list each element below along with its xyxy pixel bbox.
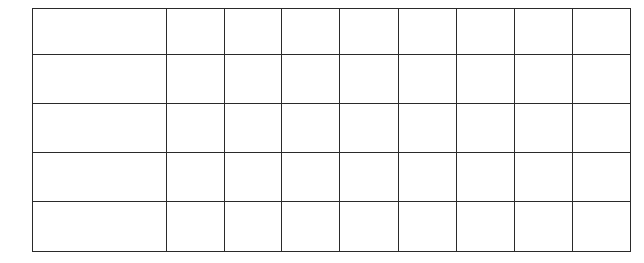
table-cell — [457, 9, 515, 55]
table-cell — [225, 104, 282, 153]
table-cell — [282, 153, 340, 202]
table-cell — [167, 55, 225, 104]
table-cell — [225, 55, 282, 104]
table-cell — [457, 55, 515, 104]
table-cell — [573, 104, 631, 153]
table-cell — [167, 9, 225, 55]
table-cell — [340, 55, 399, 104]
table-cell — [340, 9, 399, 55]
table-cell — [340, 202, 399, 252]
table-row — [33, 153, 631, 202]
table-cell — [167, 104, 225, 153]
table-cell — [457, 202, 515, 252]
table-cell — [515, 202, 573, 252]
table-row-label-cell — [33, 202, 167, 252]
table-cell — [282, 202, 340, 252]
table-cell — [399, 202, 457, 252]
table-cell — [573, 55, 631, 104]
table-row-label-cell — [33, 55, 167, 104]
table-cell — [225, 9, 282, 55]
table-cell — [282, 55, 340, 104]
table-cell — [515, 153, 573, 202]
table-cell — [573, 202, 631, 252]
table-row — [33, 55, 631, 104]
table-cell — [399, 104, 457, 153]
table-cell — [399, 9, 457, 55]
table-cell — [399, 55, 457, 104]
table-cell — [457, 104, 515, 153]
table-cell — [167, 202, 225, 252]
table-row-label-cell — [33, 153, 167, 202]
table-row-label-cell — [33, 104, 167, 153]
table-cell — [282, 104, 340, 153]
table-row — [33, 9, 631, 55]
table-cell — [515, 104, 573, 153]
empty-grid-table — [32, 8, 631, 252]
empty-grid-table-container — [32, 8, 631, 252]
table-cell — [225, 153, 282, 202]
table-cell — [282, 9, 340, 55]
table-cell — [225, 202, 282, 252]
table-row-label-cell — [33, 9, 167, 55]
table-cell — [340, 153, 399, 202]
table-cell — [457, 153, 515, 202]
table-cell — [515, 55, 573, 104]
table-body — [33, 9, 631, 252]
table-row — [33, 104, 631, 153]
table-cell — [573, 153, 631, 202]
table-row — [33, 202, 631, 252]
table-cell — [515, 9, 573, 55]
table-cell — [573, 9, 631, 55]
table-cell — [340, 104, 399, 153]
table-cell — [167, 153, 225, 202]
table-cell — [399, 153, 457, 202]
